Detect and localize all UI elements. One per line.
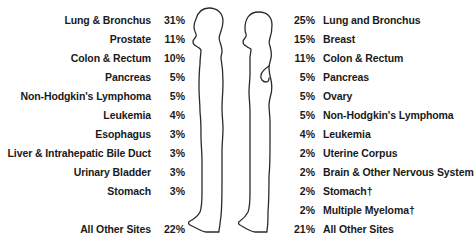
stat-percentage: 5%	[288, 89, 315, 103]
stat-percentage: 3%	[155, 127, 185, 141]
stat-cancer-site-label: Liver & Intrahepatic Bile Duct	[8, 147, 151, 159]
female-silhouette-icon	[239, 12, 273, 232]
stat-row: 4%Leukemia	[288, 126, 472, 140]
stat-row: Lung & Bronchus31%	[0, 12, 185, 26]
stat-cancer-site-label: Non-Hodgkin's Lymphoma	[20, 90, 151, 102]
stat-percentage: 2%	[288, 165, 315, 179]
stat-percentage: 5%	[288, 70, 315, 84]
stat-cancer-site-label: Ovary	[323, 90, 352, 102]
silhouette-figures-group	[186, 0, 288, 242]
stat-percentage: 5%	[288, 108, 315, 122]
stat-percentage: 4%	[288, 127, 315, 141]
stat-cancer-site-label: Leukemia	[103, 109, 151, 121]
stat-percentage: 2%	[288, 203, 315, 217]
stat-row: Esophagus3%	[0, 126, 185, 140]
stat-percentage: 3%	[155, 165, 185, 179]
stat-percentage: 11%	[155, 32, 185, 46]
stat-row: 11%Colon & Rectum	[288, 50, 472, 64]
stat-percentage: 4%	[155, 108, 185, 122]
stat-row: 2%Brain & Other Nervous System	[288, 164, 472, 178]
stat-percentage: 10%	[155, 51, 185, 65]
stat-cancer-site-label: Pancreas	[323, 71, 369, 83]
stat-percentage: 25%	[288, 13, 315, 27]
stat-cancer-site-label: Stomach	[107, 185, 151, 197]
stat-row: 5%Non-Hodgkin's Lymphoma	[288, 107, 472, 121]
stat-percentage: 22%	[155, 222, 185, 236]
stat-cancer-site-label: Leukemia	[323, 128, 371, 140]
stat-cancer-site-label: All Other Sites	[80, 223, 151, 235]
stat-percentage: 11%	[288, 51, 315, 65]
stat-row: All Other Sites22%	[0, 221, 185, 235]
male-silhouette-icon	[189, 8, 224, 232]
stat-cancer-site-label: Urinary Bladder	[74, 166, 151, 178]
stat-row: Pancreas5%	[0, 69, 185, 83]
stat-percentage: 3%	[155, 146, 185, 160]
stat-cancer-site-label: Stomach†	[323, 185, 372, 197]
stat-cancer-site-label: Esophagus	[95, 128, 151, 140]
stat-row: 21%All Other Sites	[288, 221, 472, 235]
stat-row: 2%Uterine Corpus	[288, 145, 472, 159]
stat-cancer-site-label: Lung & Bronchus	[64, 14, 151, 26]
stat-percentage: 2%	[288, 146, 315, 160]
stat-row: Liver & Intrahepatic Bile Duct3%	[0, 145, 185, 159]
stat-percentage: 31%	[155, 13, 185, 27]
stat-row: 15%Breast	[288, 31, 472, 45]
stat-percentage: 5%	[155, 89, 185, 103]
stat-row: Prostate11%	[0, 31, 185, 45]
stat-cancer-site-label: Colon & Rectum	[71, 52, 151, 64]
stat-percentage: 21%	[288, 222, 315, 236]
stat-cancer-site-label: Prostate	[110, 33, 151, 45]
stat-row: Non-Hodgkin's Lymphoma5%	[0, 88, 185, 102]
stat-cancer-site-label: Pancreas	[105, 71, 151, 83]
stat-row: Colon & Rectum10%	[0, 50, 185, 64]
stat-percentage: 5%	[155, 70, 185, 84]
stat-cancer-site-label: All Other Sites	[323, 223, 394, 235]
stat-cancer-site-label: Non-Hodgkin's Lymphoma	[323, 109, 454, 121]
stat-row: 5%Ovary	[288, 88, 472, 102]
stat-row: Stomach3%	[0, 183, 185, 197]
stat-percentage: 3%	[155, 184, 185, 198]
stat-cancer-site-label: Uterine Corpus	[323, 147, 397, 159]
stat-cancer-site-label: Colon & Rectum	[323, 52, 403, 64]
stat-row: 2%Multiple Myeloma†	[288, 202, 472, 216]
stat-cancer-site-label: Multiple Myeloma†	[323, 204, 415, 216]
stat-row: 5%Pancreas	[288, 69, 472, 83]
stat-row: Urinary Bladder3%	[0, 164, 185, 178]
stat-row: Leukemia4%	[0, 107, 185, 121]
stat-percentage: 2%	[288, 184, 315, 198]
stat-row: 25%Lung and Bronchus	[288, 12, 472, 26]
male-statistics-column: Lung & Bronchus31%Prostate11%Colon & Rec…	[0, 0, 185, 242]
female-statistics-column: 25%Lung and Bronchus15%Breast11%Colon & …	[288, 0, 472, 242]
stat-cancer-site-label: Brain & Other Nervous System	[323, 166, 474, 178]
stat-row: 2%Stomach†	[288, 183, 472, 197]
stat-percentage: 15%	[288, 32, 315, 46]
stat-cancer-site-label: Breast	[323, 33, 355, 45]
stat-cancer-site-label: Lung and Bronchus	[323, 14, 420, 26]
